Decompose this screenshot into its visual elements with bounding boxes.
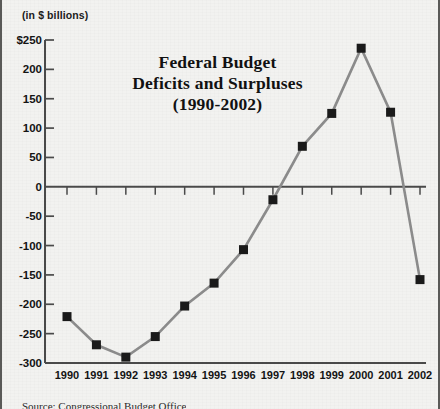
data-point-marker (386, 108, 395, 117)
y-axis-tick-label: $250 (2, 34, 42, 46)
y-axis-tick-label: 0 (2, 181, 42, 193)
y-axis-tick-label: -100 (2, 240, 42, 252)
data-point-marker (416, 275, 425, 284)
data-point-marker (268, 195, 277, 204)
y-axis-tick-label: -250 (2, 328, 42, 340)
data-point-marker (180, 302, 189, 311)
chart-tick-marks (45, 40, 420, 363)
data-point-marker (298, 142, 307, 151)
data-point-marker (210, 279, 219, 288)
y-axis-tick-label: -200 (2, 298, 42, 310)
y-axis-tick-label: 200 (2, 63, 42, 75)
chart-data-line (67, 48, 420, 357)
chart-plot-area (2, 0, 440, 409)
data-point-marker (239, 245, 248, 254)
data-point-marker (63, 312, 72, 321)
chart-figure: (in $ billions) Federal Budget Deficits … (0, 0, 440, 409)
data-point-marker (327, 109, 336, 118)
y-axis-tick-label: 150 (2, 93, 42, 105)
data-point-marker (92, 340, 101, 349)
chart-axes (45, 40, 426, 363)
source-note: Source: Congressional Budget Office (22, 400, 186, 409)
data-point-marker (357, 44, 366, 53)
y-axis-tick-label: -150 (2, 269, 42, 281)
x-axis-tick-label: 2002 (400, 369, 440, 381)
chart-data-markers (63, 44, 425, 362)
y-axis-tick-label: -300 (2, 357, 42, 369)
y-axis-tick-label: -50 (2, 210, 42, 222)
data-point-marker (121, 353, 130, 362)
y-axis-tick-label: 50 (2, 151, 42, 163)
data-point-marker (151, 332, 160, 341)
y-axis-tick-label: 100 (2, 122, 42, 134)
